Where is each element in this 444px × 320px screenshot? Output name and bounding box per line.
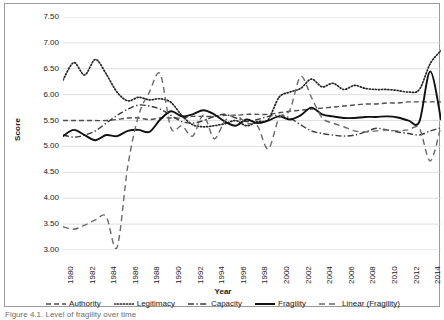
- y-axis-title-label: Score: [14, 117, 23, 140]
- x-tick-label: 1980: [66, 250, 75, 284]
- legend-item-label: Linear (Fragility): [342, 299, 400, 308]
- x-axis-title: Year: [5, 287, 441, 296]
- legend-item-label: Legitimacy: [137, 299, 175, 308]
- y-tick-label: 3.00: [43, 246, 59, 254]
- y-tick-label: 3.50: [43, 220, 59, 228]
- x-tick-label: 1982: [88, 250, 97, 284]
- y-tick-label: 7.50: [43, 13, 59, 21]
- y-tick-label: 6.00: [43, 91, 59, 99]
- x-tick-label: 2000: [282, 250, 291, 284]
- chart-plot-svg: [63, 17, 441, 250]
- x-tick-label: 2008: [368, 250, 377, 284]
- x-tick-label: 1992: [196, 250, 205, 284]
- y-tick-label: 4.00: [43, 194, 59, 202]
- dashdot-line-icon: [188, 300, 208, 308]
- legend-item-label: Capacity: [211, 299, 242, 308]
- dashed-line-icon: [46, 300, 66, 308]
- series-line-linear-fragility: [63, 73, 441, 249]
- gridlines: [63, 17, 441, 250]
- x-tick-label: 1984: [109, 250, 118, 284]
- y-tick-label: 6.50: [43, 65, 59, 73]
- y-axis-title: Score: [11, 4, 25, 254]
- x-tick-label: 1998: [260, 250, 269, 284]
- x-axis-tick-labels: 1980198219841986198819901992199419961998…: [63, 252, 441, 286]
- x-tick-label: 2004: [325, 250, 334, 284]
- legend-item[interactable]: Linear (Fragility): [319, 299, 400, 308]
- y-tick-label: 7.00: [43, 39, 59, 47]
- y-tick-label: 4.50: [43, 168, 59, 176]
- x-tick-label: 1994: [217, 250, 226, 284]
- figure-container: Score 7.507.006.506.005.505.004.504.003.…: [0, 0, 444, 320]
- x-tick-label: 2012: [412, 250, 421, 284]
- x-tick-label: 1988: [152, 250, 161, 284]
- y-axis-tick-labels: 7.507.006.506.005.505.004.504.003.503.00: [25, 4, 61, 256]
- dashed-long-line-icon: [319, 300, 339, 308]
- y-tick-label: 5.50: [43, 117, 59, 125]
- x-tick-label: 2002: [304, 250, 313, 284]
- x-tick-label: 1990: [174, 250, 183, 284]
- y-tick-label: 5.00: [43, 142, 59, 150]
- x-tick-label: 2010: [390, 250, 399, 284]
- chart-frame: Score 7.507.006.506.005.505.004.504.003.…: [4, 3, 440, 307]
- x-tick-label: 2014: [433, 250, 442, 284]
- chart-legend: AuthorityLegitimacyCapacityFragilityLine…: [5, 299, 441, 308]
- solid-line-icon: [255, 300, 275, 308]
- dotted-line-icon: [114, 300, 134, 308]
- legend-item[interactable]: Legitimacy: [114, 299, 175, 308]
- legend-item-label: Authority: [69, 299, 101, 308]
- series-line-authority: [63, 102, 441, 121]
- x-tick-label: 2006: [347, 250, 356, 284]
- legend-item[interactable]: Authority: [46, 299, 101, 308]
- x-axis-title-label: Year: [215, 287, 232, 296]
- x-tick-label: 1986: [131, 250, 140, 284]
- figure-caption: Figure 4.1. Level of fragility over time: [5, 310, 305, 319]
- x-tick-label: 1996: [239, 250, 248, 284]
- legend-item[interactable]: Fragility: [255, 299, 306, 308]
- series-line-legitimacy: [63, 51, 441, 127]
- legend-item-label: Fragility: [278, 299, 306, 308]
- plot-area: [63, 17, 441, 250]
- legend-item[interactable]: Capacity: [188, 299, 242, 308]
- data-series-group: [63, 51, 441, 249]
